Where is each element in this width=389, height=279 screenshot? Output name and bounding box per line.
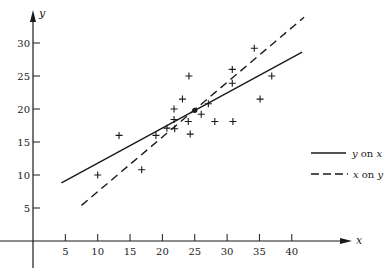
line-y-on-x	[61, 52, 302, 183]
plus-marker-icon	[257, 96, 264, 103]
y-tick-label: 20	[17, 104, 30, 115]
plus-marker-icon	[138, 166, 145, 173]
plus-marker-icon	[229, 80, 236, 87]
plus-marker-icon	[116, 132, 123, 139]
x-tick-label: 30	[221, 246, 234, 257]
regression-chart: xy51015202530354051015202530 y on x x on…	[0, 0, 389, 279]
x-axis-label: x	[356, 234, 363, 247]
plus-marker-icon	[187, 131, 194, 138]
plus-marker-icon	[171, 106, 178, 113]
chart-canvas: xy51015202530354051015202530 y on x x on…	[0, 0, 389, 279]
data-points	[94, 45, 275, 179]
legend: y on x x on y	[311, 148, 383, 180]
axes: xy51015202530354051015202530	[0, 7, 363, 268]
plus-marker-icon	[229, 66, 236, 73]
plus-marker-icon	[185, 73, 192, 80]
plus-marker-icon	[268, 73, 275, 80]
y-axis-arrow-icon	[30, 10, 36, 22]
x-tick-label: 10	[91, 246, 104, 257]
x-tick-label: 40	[285, 246, 298, 257]
plus-marker-icon	[163, 125, 170, 132]
plus-marker-icon	[185, 118, 192, 125]
mean-point	[192, 108, 197, 113]
y-axis-label: y	[38, 7, 46, 20]
y-tick-label: 30	[17, 38, 30, 49]
x-tick-label: 15	[124, 246, 137, 257]
plus-marker-icon	[94, 172, 101, 179]
y-tick-label: 5	[24, 203, 30, 214]
plus-marker-icon	[171, 116, 178, 123]
plus-marker-icon	[179, 96, 186, 103]
x-tick-label: 25	[188, 246, 201, 257]
x-tick-label: 5	[62, 246, 68, 257]
plus-marker-icon	[229, 118, 236, 125]
plus-marker-icon	[211, 118, 218, 125]
y-tick-label: 10	[17, 170, 30, 181]
x-axis-arrow-icon	[340, 238, 352, 244]
y-tick-label: 25	[17, 71, 30, 82]
plus-marker-icon	[198, 111, 205, 118]
legend-label-y-on-x: y on x	[351, 148, 382, 159]
x-tick-label: 20	[156, 246, 169, 257]
y-tick-label: 15	[17, 137, 30, 148]
x-tick-label: 35	[253, 246, 266, 257]
legend-label-x-on-y: x on y	[353, 169, 383, 180]
plus-marker-icon	[171, 125, 178, 132]
plus-marker-icon	[251, 45, 258, 52]
